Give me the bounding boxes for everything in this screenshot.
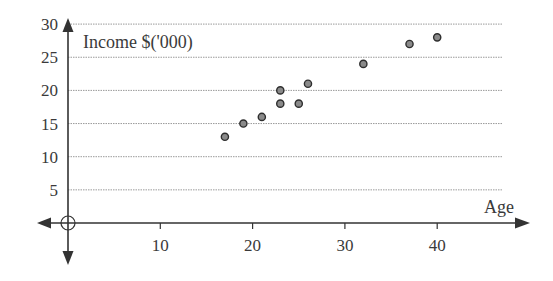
x-tick-label: 30 <box>336 236 353 255</box>
data-point <box>406 40 413 47</box>
data-point <box>277 100 284 107</box>
data-point <box>434 34 441 41</box>
y-tick-label: 15 <box>41 115 58 134</box>
y-tick-label: 10 <box>41 148 58 167</box>
scatter-chart: 51015202530 10203040 Income $('000) Age <box>0 0 553 281</box>
data-point <box>258 113 265 120</box>
data-point <box>221 133 228 140</box>
arrow-left-icon <box>37 218 51 229</box>
y-tick-labels: 51015202530 <box>41 15 58 200</box>
data-point <box>295 100 302 107</box>
x-ticks: 10203040 <box>152 223 446 255</box>
arrow-down-icon <box>63 251 74 265</box>
y-tick-label: 5 <box>50 181 59 200</box>
x-tick-label: 40 <box>429 236 446 255</box>
y-tick-label: 20 <box>41 81 58 100</box>
x-tick-label: 10 <box>152 236 169 255</box>
x-tick-label: 20 <box>244 236 261 255</box>
y-tick-label: 30 <box>41 15 58 34</box>
x-axis-title: Age <box>484 197 514 217</box>
data-points <box>221 34 440 141</box>
y-axis-title: Income $('000) <box>83 32 193 53</box>
data-point <box>240 120 247 127</box>
data-point <box>277 87 284 94</box>
arrow-up-icon <box>63 18 74 32</box>
data-point <box>304 80 311 87</box>
y-tick-label: 25 <box>41 48 58 67</box>
data-point <box>360 60 367 67</box>
axes <box>37 18 530 265</box>
arrow-right-icon <box>515 218 530 229</box>
